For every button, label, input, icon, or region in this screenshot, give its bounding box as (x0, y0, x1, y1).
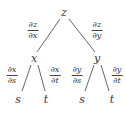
node-y: y (94, 53, 100, 64)
edge-z-x (37, 19, 60, 52)
label-dz-dx: ∂z ∂x (28, 20, 39, 40)
denominator: ∂s (72, 76, 82, 85)
node-y-t: t (110, 94, 114, 105)
label-dy-ds: ∂y ∂s (72, 65, 83, 85)
edge-y-t (101, 65, 109, 91)
node-x-t: t (44, 94, 48, 105)
numerator: ∂x (7, 65, 18, 74)
edge-x-t (38, 65, 45, 91)
denominator: ∂t (112, 76, 121, 85)
label-dx-ds: ∂x ∂s (7, 65, 18, 85)
denominator: ∂t (50, 76, 59, 85)
numerator: ∂z (28, 20, 38, 29)
label-dz-dy: ∂z ∂y (92, 20, 103, 40)
node-x: x (31, 53, 37, 64)
label-dx-dt: ∂x ∂t (50, 65, 61, 85)
numerator: ∂y (112, 65, 123, 74)
edge-y-s (85, 65, 94, 91)
denominator: ∂x (28, 31, 39, 40)
edge-x-s (22, 65, 31, 91)
node-y-s: s (79, 94, 85, 105)
denominator: ∂s (7, 76, 17, 85)
node-x-s: s (15, 94, 21, 105)
numerator: ∂y (72, 65, 83, 74)
node-z: z (61, 7, 67, 18)
numerator: ∂z (92, 20, 102, 29)
numerator: ∂x (50, 65, 61, 74)
label-dy-dt: ∂y ∂t (112, 65, 123, 85)
denominator: ∂y (92, 31, 103, 40)
